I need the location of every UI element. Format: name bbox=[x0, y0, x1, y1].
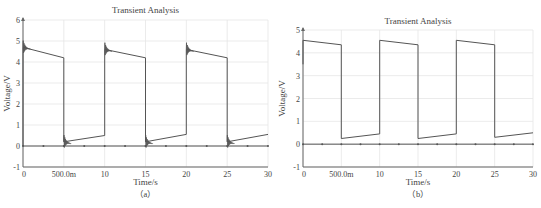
y-tick-label: 0 bbox=[296, 140, 300, 149]
chart-title: Transient Analysis bbox=[112, 5, 179, 15]
baseline-marker bbox=[185, 145, 187, 147]
y-tick-label: 2 bbox=[296, 95, 300, 104]
x-tick-label: 500.0m bbox=[329, 170, 354, 179]
y-tick-label: 6 bbox=[16, 16, 20, 25]
baseline-marker bbox=[302, 143, 304, 145]
y-tick-label: 3 bbox=[296, 72, 300, 81]
y-tick-label: 5 bbox=[296, 26, 300, 35]
ringing-trace bbox=[105, 43, 112, 55]
y-tick-label: -1 bbox=[13, 163, 20, 172]
y-axis-arrow-icon bbox=[301, 27, 305, 31]
baseline-marker bbox=[417, 143, 419, 145]
baseline-marker bbox=[532, 143, 534, 145]
baseline-marker bbox=[475, 143, 477, 145]
x-tick-label: 10 bbox=[376, 170, 384, 179]
figure-caption: （b） bbox=[407, 189, 429, 199]
y-tick-label: 0 bbox=[16, 142, 20, 151]
x-tick-label: 500.0m bbox=[52, 170, 77, 179]
x-tick-label: 0 bbox=[22, 170, 26, 179]
y-axis-label: Voltage/V bbox=[277, 80, 287, 117]
baseline-marker bbox=[42, 145, 44, 147]
y-tick-label: -1 bbox=[293, 163, 300, 172]
baseline-marker bbox=[247, 145, 249, 147]
y-tick-label: 4 bbox=[16, 58, 20, 67]
chart-a-transient-analysis: -101234560500.0m1015202530Transient Anal… bbox=[2, 5, 272, 199]
x-tick-label: 10 bbox=[101, 170, 109, 179]
baseline-marker bbox=[513, 143, 515, 145]
x-tick-label: 20 bbox=[182, 170, 190, 179]
baseline-marker bbox=[124, 145, 126, 147]
y-axis-label: Voltage/V bbox=[2, 75, 12, 112]
y-tick-label: 1 bbox=[296, 117, 300, 126]
baseline-marker bbox=[63, 145, 65, 147]
baseline-marker bbox=[83, 145, 85, 147]
chart-title: Transient Analysis bbox=[385, 16, 452, 26]
baseline-marker bbox=[104, 145, 106, 147]
baseline-marker bbox=[494, 143, 496, 145]
baseline-marker bbox=[455, 143, 457, 145]
y-tick-label: 5 bbox=[16, 37, 20, 46]
baseline-marker bbox=[436, 143, 438, 145]
x-tick-label: 30 bbox=[264, 170, 272, 179]
baseline-marker bbox=[206, 145, 208, 147]
x-axis-label: Time/s bbox=[133, 177, 158, 187]
figure-canvas: -101234560500.0m1015202530Transient Anal… bbox=[0, 0, 541, 208]
ringing-trace bbox=[23, 41, 30, 53]
ringing-trace bbox=[186, 43, 193, 55]
x-axis-label: Time/s bbox=[406, 177, 431, 187]
y-axis-arrow-icon bbox=[21, 17, 25, 21]
baseline-marker bbox=[360, 143, 362, 145]
y-tick-label: 4 bbox=[296, 49, 300, 58]
baseline-marker bbox=[340, 143, 342, 145]
y-tick-label: 3 bbox=[16, 79, 20, 88]
x-tick-label: 25 bbox=[223, 170, 231, 179]
baseline-marker bbox=[22, 145, 24, 147]
baseline-marker bbox=[398, 143, 400, 145]
baseline-marker bbox=[145, 145, 147, 147]
x-tick-label: 25 bbox=[491, 170, 499, 179]
baseline-marker bbox=[226, 145, 228, 147]
baseline-marker bbox=[321, 143, 323, 145]
figure-caption: （a） bbox=[135, 189, 157, 199]
x-tick-label: 0 bbox=[302, 170, 306, 179]
baseline-marker bbox=[165, 145, 167, 147]
y-tick-label: 1 bbox=[16, 121, 20, 130]
baseline-marker bbox=[379, 143, 381, 145]
x-tick-label: 30 bbox=[529, 170, 537, 179]
x-tick-label: 20 bbox=[452, 170, 460, 179]
y-tick-label: 2 bbox=[16, 100, 20, 109]
chart-b-transient-analysis: -10123450500.0m1015202530Transient Analy… bbox=[277, 16, 537, 199]
voltage-trace bbox=[303, 40, 533, 138]
baseline-marker bbox=[267, 145, 269, 147]
